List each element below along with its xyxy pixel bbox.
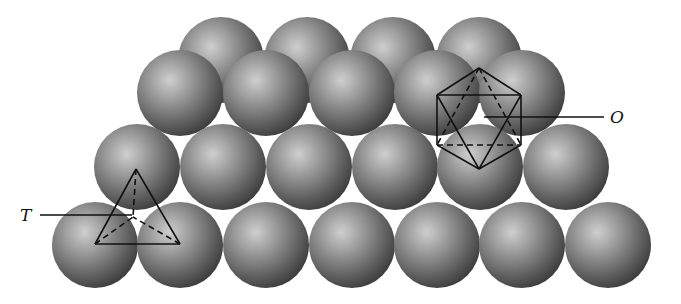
bottom-layer: [52, 202, 651, 288]
tetrahedral-label: T: [20, 205, 33, 225]
sphere: [137, 50, 223, 136]
sphere: [223, 202, 309, 288]
close-packing-diagram: T O: [0, 0, 681, 304]
sphere: [223, 50, 309, 136]
middle-layer: [94, 124, 609, 210]
upper-front-layer: [137, 50, 565, 136]
sphere-layers: [52, 17, 651, 288]
sphere: [94, 124, 180, 210]
sphere: [352, 124, 438, 210]
sphere: [479, 202, 565, 288]
sphere: [309, 202, 395, 288]
sphere: [479, 50, 565, 136]
sphere: [180, 124, 266, 210]
sphere: [394, 202, 480, 288]
sphere: [309, 50, 395, 136]
octahedral-label: O: [610, 107, 624, 127]
sphere: [565, 202, 651, 288]
sphere: [523, 124, 609, 210]
sphere: [137, 202, 223, 288]
sphere: [266, 124, 352, 210]
